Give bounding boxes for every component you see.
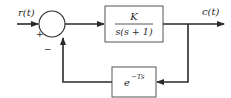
delay-base: e (124, 77, 130, 88)
forward-numerator: K (129, 11, 138, 22)
feedback-delay-block: e −Ts (112, 67, 156, 97)
block-diagram: r(t) + − K s(s + 1) c(t) e −Ts (0, 0, 231, 98)
summing-junction: + − (36, 11, 65, 54)
delay-exponent: −Ts (131, 73, 145, 81)
input-signal: r(t) (17, 7, 38, 24)
output-label: c(t) (202, 6, 220, 17)
minus-sign: − (44, 44, 52, 54)
plus-sign: + (36, 29, 44, 39)
output-signal: c(t) (163, 6, 224, 24)
input-label: r(t) (18, 7, 35, 18)
forward-denominator: s(s + 1) (115, 26, 153, 37)
forward-transfer-block: K s(s + 1) (105, 6, 163, 42)
